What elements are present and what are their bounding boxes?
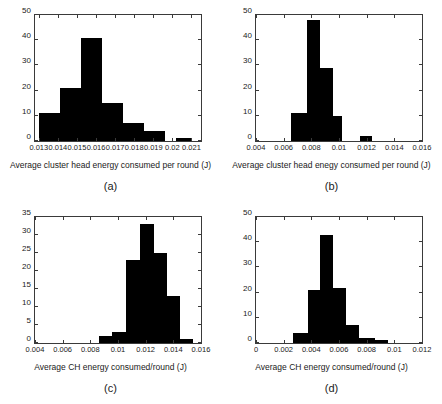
y-axis-tick — [198, 270, 201, 271]
plot-area-a: 010203040500.0130.0140.0150.0160.0170.01… — [34, 14, 202, 142]
y-axis-tick — [198, 306, 201, 307]
x-axis-tick — [367, 138, 368, 141]
x-axis-tick — [118, 340, 119, 343]
y-axis-tick-label: 15 — [22, 281, 31, 289]
x-axis-tick — [153, 138, 154, 141]
x-axis-tick-label: 0.006 — [330, 346, 349, 354]
y-axis-tick — [198, 140, 201, 141]
x-axis-tick-label: 0 — [254, 346, 258, 354]
histogram-bar — [293, 333, 308, 343]
y-axis-tick — [35, 140, 38, 141]
x-axis-tick — [284, 340, 285, 343]
histogram-bar — [375, 340, 388, 343]
y-axis-tick — [256, 90, 259, 91]
x-axis-tick-label: 0.01 — [332, 144, 347, 152]
subplot-caption-a: (a) — [0, 180, 221, 192]
plot-area-b: 010203040500.0040.0060.0080.010.0120.014… — [255, 14, 423, 142]
plot-area-d: 0102030405000.0020.0040.0060.0080.010.01… — [255, 216, 423, 344]
histogram-bar — [320, 235, 333, 343]
x-axis-tick — [284, 15, 285, 18]
histogram-bar — [126, 260, 140, 343]
y-axis-tick — [35, 115, 38, 116]
x-axis-tick-label: 0.006 — [274, 144, 293, 152]
x-axis-tick — [422, 217, 423, 220]
x-axis-tick — [311, 340, 312, 343]
x-axis-tick — [173, 217, 174, 220]
y-axis-tick-label: 0 — [248, 335, 252, 343]
x-axis-tick-label: 0.019 — [144, 144, 163, 152]
y-axis-tick — [256, 266, 259, 267]
y-axis-tick-label: 30 — [243, 57, 252, 65]
y-axis-tick — [419, 64, 422, 65]
histogram-bar — [167, 296, 180, 343]
y-axis-tick — [198, 14, 201, 15]
bars-c — [35, 217, 201, 343]
x-axis-tick-label: 0.008 — [302, 144, 321, 152]
x-axis-tick — [35, 217, 36, 220]
histogram-bar — [60, 88, 81, 141]
x-axis-tick — [201, 217, 202, 220]
y-axis-tick-label: 35 — [22, 209, 31, 217]
x-axis-tick — [311, 138, 312, 141]
x-axis-tick-label: 0.012 — [136, 346, 155, 354]
x-axis-tick-label: 0.012 — [357, 144, 376, 152]
x-axis-tick — [394, 138, 395, 141]
x-axis-tick-label: 0.01 — [387, 346, 402, 354]
x-axis-tick — [394, 217, 395, 220]
x-axis-tick — [367, 340, 368, 343]
histogram-bar — [307, 20, 320, 141]
x-axis-tick — [339, 138, 340, 141]
y-axis-tick — [35, 288, 38, 289]
x-axis-tick — [191, 15, 192, 18]
x-axis-tick-label: 0.014 — [49, 144, 68, 152]
y-axis-tick-label: 10 — [22, 299, 31, 307]
subplot-a: 010203040500.0130.0140.0150.0160.0170.01… — [0, 0, 221, 202]
y-axis-tick — [198, 64, 201, 65]
bars-d — [256, 217, 422, 343]
x-axis-tick-label: 0.01 — [111, 346, 126, 354]
y-axis-tick — [256, 39, 259, 40]
y-axis-tick-label: 40 — [243, 234, 252, 242]
figure-canvas: 010203040500.0130.0140.0150.0160.0170.01… — [0, 0, 442, 404]
y-axis-tick-label: 0 — [248, 133, 252, 141]
x-axis-tick-label: 0.016 — [413, 144, 432, 152]
histogram-bar — [81, 38, 102, 141]
y-axis-tick-label: 10 — [243, 310, 252, 318]
histogram-bar — [102, 103, 123, 141]
x-axis-tick — [172, 138, 173, 141]
x-axis-tick — [173, 340, 174, 343]
y-axis-tick-label: 5 — [27, 317, 31, 325]
x-axis-tick-label: 0.004 — [26, 346, 45, 354]
y-axis-tick — [256, 317, 259, 318]
subplot-caption-b: (b) — [221, 180, 442, 192]
x-axis-tick-label: 0.002 — [274, 346, 293, 354]
x-axis-tick — [311, 15, 312, 18]
y-axis-tick — [198, 288, 201, 289]
x-axis-tick — [115, 15, 116, 18]
plot-area-c: 051015202530350.0040.0060.0080.010.0120.… — [34, 216, 202, 344]
x-axis-tick — [134, 138, 135, 141]
histogram-bar — [140, 224, 154, 343]
x-axis-tick — [201, 340, 202, 343]
x-axis-tick — [96, 15, 97, 18]
histogram-bar — [180, 339, 193, 343]
y-axis-tick — [256, 115, 259, 116]
x-axis-tick-label: 0.012 — [413, 346, 432, 354]
y-axis-tick — [198, 252, 201, 253]
y-axis-tick-label: 25 — [22, 245, 31, 253]
x-axis-tick — [256, 217, 257, 220]
histogram-bar — [346, 325, 359, 343]
y-axis-tick — [419, 266, 422, 267]
x-axis-tick — [153, 15, 154, 18]
y-axis-tick-label: 20 — [22, 263, 31, 271]
x-axis-tick — [339, 340, 340, 343]
x-axis-tick — [39, 138, 40, 141]
subplot-d: 0102030405000.0020.0040.0060.0080.010.01… — [221, 202, 442, 404]
y-axis-tick-label: 50 — [22, 7, 31, 15]
x-axis-title-b: Average cluster head enegy consumed per … — [221, 160, 442, 170]
x-axis-tick — [90, 340, 91, 343]
histogram-bar — [99, 336, 112, 343]
y-axis-tick — [419, 317, 422, 318]
x-axis-tick-label: 0.006 — [53, 346, 72, 354]
y-axis-tick-label: 30 — [22, 57, 31, 65]
